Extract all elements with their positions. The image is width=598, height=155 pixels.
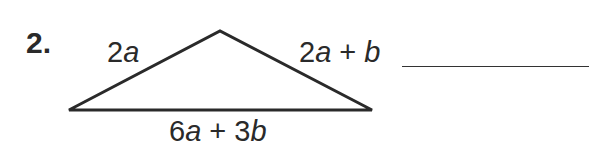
side-label-right: 2a + b [299,36,380,69]
side-label-left: 2a [107,36,139,69]
answer-blank-line[interactable] [402,66,589,67]
side-label-bottom: 6a + 3b [169,115,267,148]
triangle-figure [0,0,598,155]
